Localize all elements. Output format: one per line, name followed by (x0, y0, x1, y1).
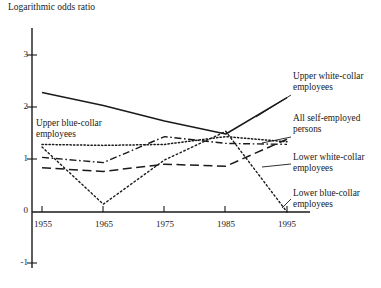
annotation-line-2: employees (36, 129, 76, 139)
annotation-line-1: All self-employed (293, 113, 360, 123)
plot-area (0, 0, 381, 288)
series-paths (42, 92, 287, 212)
annotation-upper-blue-collar: Upper blue-collar employees (36, 118, 102, 139)
annotation-line-1: Upper white-collar (293, 71, 363, 81)
annotation-line-1: Lower blue-collar (293, 188, 360, 198)
annotation-upper-white-collar: Upper white-collar employees (293, 71, 363, 92)
annotation-all-self-employed: All self-employed persons (293, 113, 360, 134)
annotation-leaders (256, 95, 291, 208)
series-line-lower-blue-collar (42, 131, 287, 212)
series-line-all-self-employed (42, 137, 287, 163)
leader-upper-white-collar (256, 95, 291, 117)
annotation-line-1: Upper blue-collar (36, 118, 102, 128)
annotation-line-2: employees (293, 82, 333, 92)
x-axis-ticks (42, 206, 287, 212)
annotation-line-2: employees (293, 163, 333, 173)
leader-lower-white-collar (262, 164, 291, 167)
annotation-line-2: persons (293, 124, 321, 134)
chart-container: Logarithmic odds ratio 3 2 1 0 -1 1955 1… (0, 0, 381, 288)
annotation-lower-white-collar: Lower white-collar employees (293, 152, 365, 173)
annotation-line-1: Lower white-collar (293, 152, 365, 162)
annotation-line-2: employees (293, 199, 333, 209)
annotation-lower-blue-collar: Lower blue-collar employees (293, 188, 360, 209)
